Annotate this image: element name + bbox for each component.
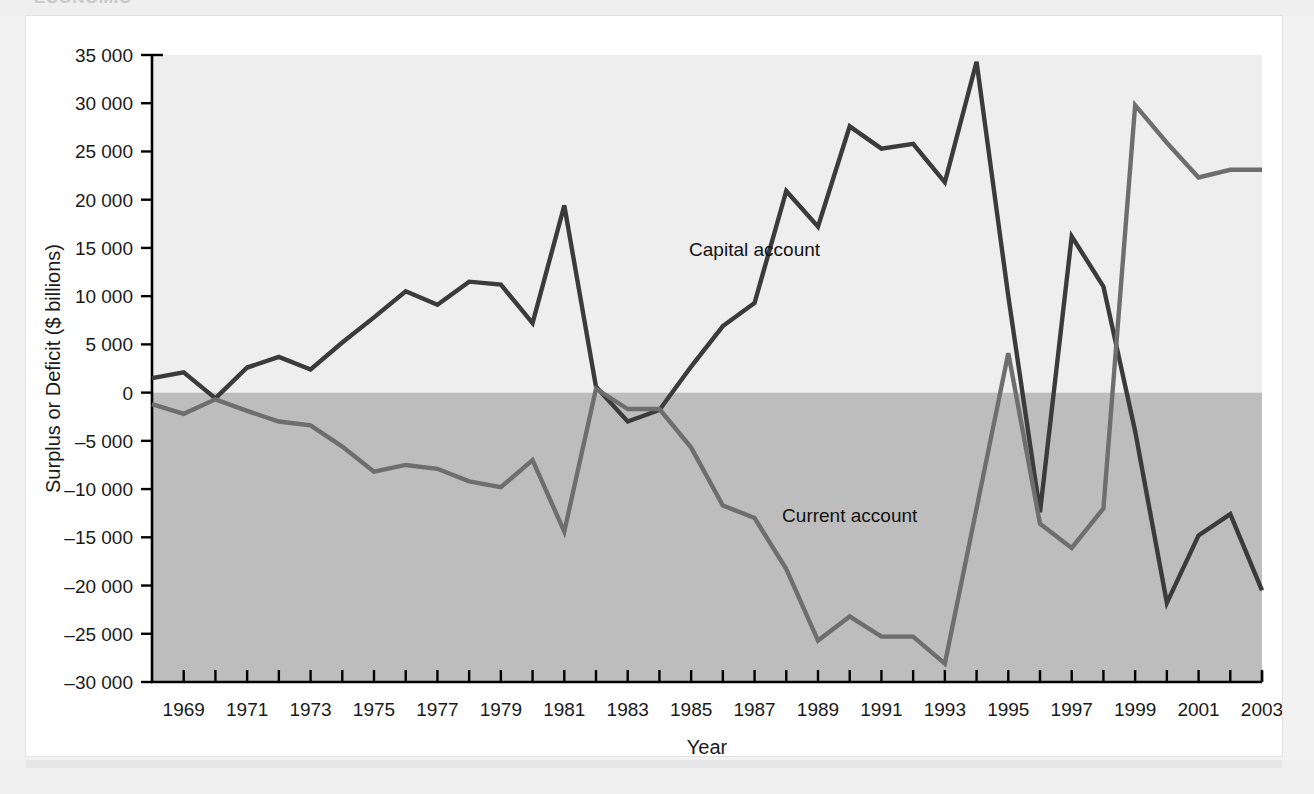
svg-text:1971: 1971 xyxy=(226,699,268,720)
svg-text:1989: 1989 xyxy=(797,699,839,720)
plot-background xyxy=(152,55,1262,682)
svg-text:Current account: Current account xyxy=(782,505,918,526)
figure-card: 35 00030 00025 00020 00015 00010 0005 00… xyxy=(26,16,1282,756)
figure-page: ECONOMIC 35 00030 00025 00020 00015 0001… xyxy=(0,0,1314,794)
svg-text:15 000: 15 000 xyxy=(75,238,133,259)
svg-text:1983: 1983 xyxy=(607,699,649,720)
svg-text:1991: 1991 xyxy=(860,699,902,720)
svg-text:–25 000: –25 000 xyxy=(64,624,133,645)
svg-text:1969: 1969 xyxy=(163,699,205,720)
x-axis-tick-labels: 1969197119731975197719791981198319851987… xyxy=(163,699,1282,720)
svg-text:0: 0 xyxy=(122,383,133,404)
svg-text:1997: 1997 xyxy=(1051,699,1093,720)
svg-text:1973: 1973 xyxy=(289,699,331,720)
svg-text:–30 000: –30 000 xyxy=(64,672,133,693)
svg-text:Surplus or Deficit ($ billions: Surplus or Deficit ($ billions) xyxy=(42,244,64,493)
svg-text:1979: 1979 xyxy=(480,699,522,720)
svg-text:1995: 1995 xyxy=(987,699,1029,720)
svg-text:20 000: 20 000 xyxy=(75,190,133,211)
svg-text:–5 000: –5 000 xyxy=(75,431,133,452)
svg-text:–20 000: –20 000 xyxy=(64,576,133,597)
svg-text:–15 000: –15 000 xyxy=(64,527,133,548)
svg-text:Capital account: Capital account xyxy=(689,239,821,260)
svg-text:1993: 1993 xyxy=(924,699,966,720)
svg-text:25 000: 25 000 xyxy=(75,141,133,162)
svg-text:1985: 1985 xyxy=(670,699,712,720)
page-bottom-band xyxy=(0,760,1314,794)
svg-text:Year: Year xyxy=(687,736,728,756)
cropped-heading-strip: ECONOMIC xyxy=(0,0,1314,16)
svg-text:2003: 2003 xyxy=(1241,699,1282,720)
svg-text:1977: 1977 xyxy=(416,699,458,720)
svg-text:5 000: 5 000 xyxy=(85,334,133,355)
svg-text:1999: 1999 xyxy=(1114,699,1156,720)
line-chart: 35 00030 00025 00020 00015 00010 0005 00… xyxy=(26,16,1282,756)
svg-text:1981: 1981 xyxy=(543,699,585,720)
y-axis-tick-labels: 35 00030 00025 00020 00015 00010 0005 00… xyxy=(64,45,133,693)
cropped-heading-text: ECONOMIC xyxy=(34,0,132,8)
svg-text:–10 000: –10 000 xyxy=(64,479,133,500)
svg-text:30 000: 30 000 xyxy=(75,93,133,114)
svg-text:2001: 2001 xyxy=(1177,699,1219,720)
svg-text:1975: 1975 xyxy=(353,699,395,720)
svg-text:35 000: 35 000 xyxy=(75,45,133,66)
svg-text:10 000: 10 000 xyxy=(75,286,133,307)
svg-text:1987: 1987 xyxy=(733,699,775,720)
